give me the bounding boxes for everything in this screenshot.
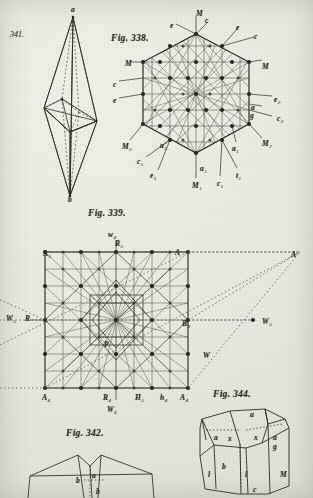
fig-338-label-subscript-19: 1 [204, 169, 207, 174]
fig-339-label-subscript-14: 4 [165, 398, 168, 403]
fig-338-label-e-8: e [113, 97, 116, 105]
fig-339-label-r-12: R4 [103, 394, 111, 402]
fig-342-caption: Fig. 342. [66, 429, 104, 439]
fig-338-label-e-18: e5 [150, 172, 156, 180]
fig-338-label-e-3: e [236, 24, 239, 32]
fig-339-label-subscript-8: 5 [269, 322, 272, 327]
fig-341-number: 341. [10, 31, 24, 39]
fig-344-label-l-7: l [208, 471, 210, 479]
fig-338-label-c-21: c1 [217, 180, 223, 188]
fig-341-drawing [44, 16, 97, 198]
fig-338-label-a-19: a1 [200, 165, 206, 173]
fig-339-label-a-15: A4 [180, 394, 188, 402]
fig-344-label-x-2: x [228, 435, 232, 443]
fig-338-label-c-2: c [205, 17, 208, 25]
fig-339-label-subscript-1: 5 [121, 244, 124, 249]
fig-339-label-h-13: H5 [135, 394, 143, 402]
fig-339-label-w-8: W5 [262, 318, 271, 326]
fig-338-label-t-22: t1 [236, 172, 241, 180]
fig-344-label-m-9: M [280, 471, 287, 479]
fig-338-label-subscript-21: 1 [221, 184, 224, 189]
fig-339-label-h-14: h4 [160, 394, 167, 402]
fig-338-label-subscript-15: 5 [164, 146, 167, 151]
fig-339-label-a-2: A5 [43, 250, 51, 258]
fig-344-label-a-1: a [214, 434, 218, 442]
fig-344-label-a-4: a [273, 434, 277, 442]
fig-342-label-b-2: b [96, 488, 100, 496]
fig-339-label-w-10: W [203, 352, 210, 360]
fig-339-label-subscript-7: 0 [188, 324, 191, 329]
fig-339-label-subscript-13: 5 [141, 398, 144, 403]
fig-338-label-subscript-17: 5 [141, 162, 144, 167]
fig-338-label-subscript-20: 1 [199, 186, 202, 191]
fig-338-label-m-13: M5 [122, 143, 131, 151]
fig-344-label-l-8: l [245, 471, 247, 479]
fig-342-label-a-1: a [92, 472, 96, 480]
fig-339-drawing [0, 184, 300, 456]
fig-338-label-m-14: M2 [262, 140, 271, 148]
fig-339-label-a-4: A [291, 251, 296, 259]
fig-338-label-e-9: e2 [274, 96, 280, 104]
fig-339-label-subscript-5: 5 [13, 319, 16, 324]
fig-339-label-r-6: R [25, 315, 30, 323]
fig-341-vertex-a: a [71, 6, 75, 14]
fig-339-label-subscript-16: 6 [114, 410, 117, 415]
fig-339-label-subscript-11: 4 [48, 398, 51, 403]
fig-338-label-c-7: c [113, 81, 116, 89]
fig-338-label-subscript-18: 5 [154, 176, 157, 181]
fig-344-label-b-6: b [222, 463, 226, 471]
fig-339-label-w-5: W5 [6, 315, 15, 323]
fig-338-drawing [119, 0, 272, 180]
fig-339-label-b-7: B0 [182, 320, 190, 328]
fig-338-label-c-12: c2 [277, 115, 283, 123]
fig-339-label-w-16: W6 [107, 406, 116, 414]
fig-344-label-g-5: g [273, 443, 277, 451]
fig-339-caption: Fig. 339. [88, 209, 126, 219]
fig-341-vertex-b: b [68, 196, 72, 204]
fig-339-label-p-9: P [104, 341, 109, 349]
fig-342-drawing [28, 455, 154, 498]
fig-338-label-a-15: a5 [160, 142, 166, 150]
fig-344-label-x-3: x [254, 434, 258, 442]
fig-342-label-b-0: b [76, 477, 80, 485]
fig-338-label-m-0: M [196, 10, 203, 18]
fig-344-drawing [200, 409, 289, 494]
fig-344-caption: Fig. 344. [213, 390, 251, 400]
fig-338-label-c-17: c5 [137, 158, 143, 166]
fig-338-label-subscript-9: 2 [278, 100, 281, 105]
fig-339-label-r-1: R5 [115, 240, 123, 248]
fig-338-label-g-11: g [250, 112, 254, 120]
fig-339-label-subscript-12: 4 [109, 398, 112, 403]
fig-338-label-subscript-12: 2 [281, 119, 284, 124]
fig-338-label-m-20: M1 [192, 182, 201, 190]
fig-338-caption: Fig. 338. [111, 34, 149, 44]
fig-339-label-a-3: A [175, 249, 180, 257]
fig-339-label-subscript-2: 5 [49, 254, 52, 259]
fig-339-label-a-11: A4 [42, 394, 50, 402]
fig-338-label-m-6: M [262, 63, 269, 71]
crystallography-plate: 341. a b Fig. 338. MececMMcee2agc2M5M2a5… [0, 0, 313, 498]
fig-338-label-m-5: M [125, 60, 132, 68]
fig-344-label-a-0: a [250, 411, 254, 419]
fig-338-label-subscript-16: 1 [236, 149, 239, 154]
fig-339-label-subscript-15: 4 [186, 398, 189, 403]
fig-338-label-a-16: a1 [232, 145, 238, 153]
fig-338-label-e-1: e [170, 22, 173, 30]
fig-338-label-subscript-14: 2 [269, 144, 272, 149]
fig-338-label-c-4: c [254, 33, 257, 41]
fig-339-label-w-0: w4 [108, 231, 116, 239]
fig-338-label-subscript-22: 1 [239, 176, 242, 181]
fig-344-label-c-10: c [253, 486, 256, 494]
fig-338-label-subscript-13: 5 [129, 147, 132, 152]
